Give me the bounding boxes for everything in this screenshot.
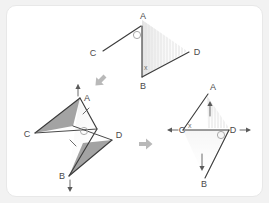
- vertex-label-B-top: B: [140, 81, 146, 91]
- motion-arrow-down-left: [92, 72, 109, 89]
- geometry-diagram-svg: x A C D B: [7, 6, 263, 197]
- vertex-label-A-bottom-left: A: [84, 93, 90, 103]
- vertex-label-B-bottom-right: B: [201, 179, 207, 189]
- shade-region-top: [142, 20, 187, 78]
- angle-mark-x-C-bottom-right: x: [188, 122, 192, 129]
- vertex-label-B-bottom-left: B: [59, 171, 65, 181]
- panel-final-figure: x: [167, 82, 251, 189]
- diagram-card: x A C D B: [6, 5, 263, 197]
- panel-rotated-figure: A C D B: [24, 84, 123, 192]
- vertex-label-C-bottom-right: C: [179, 125, 186, 135]
- diagram-stage: x A C D B: [7, 6, 262, 196]
- vertex-label-D-top: D: [194, 47, 201, 57]
- vertex-label-C-bottom-left: C: [24, 129, 31, 139]
- segment-CA-bottom-right: [183, 94, 208, 130]
- vertex-label-C-top: C: [90, 48, 97, 58]
- vertex-label-D-bottom-left: D: [116, 130, 123, 140]
- panel-original-figure: x A C D B: [90, 11, 201, 91]
- vertex-label-D-bottom-right: D: [230, 125, 237, 135]
- angle-mark-circle-A-top: [133, 31, 140, 38]
- direction-tick-up-A: [75, 84, 80, 96]
- angle-mark-x-B-top: x: [144, 64, 148, 71]
- motion-arrow-right: [139, 139, 153, 150]
- vertex-label-A-top: A: [140, 11, 146, 21]
- direction-tick-left-C: [167, 128, 178, 133]
- vertex-label-A-bottom-right: A: [210, 82, 216, 92]
- shade-region-bottom-right: [183, 96, 229, 178]
- direction-tick-right-D: [240, 128, 251, 133]
- direction-tick-down-B: [67, 180, 72, 192]
